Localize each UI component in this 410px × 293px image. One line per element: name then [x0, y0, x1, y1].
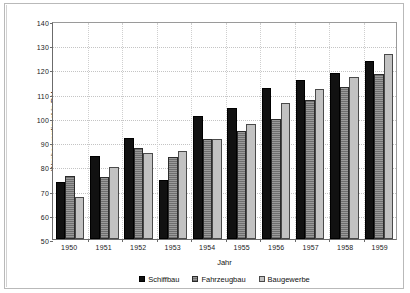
bar — [340, 87, 350, 239]
bar — [237, 131, 247, 240]
y-axis-tick-label: 130 — [37, 44, 49, 51]
bar-group — [53, 23, 87, 239]
legend-label: Baugewerbe — [268, 275, 310, 284]
bar — [281, 103, 291, 239]
bar-group — [156, 23, 190, 239]
bar — [374, 74, 384, 239]
bar — [159, 180, 169, 239]
bar — [65, 176, 75, 239]
bar — [384, 54, 394, 239]
bar — [246, 124, 256, 239]
y-axis-tick-label: 100 — [37, 116, 49, 123]
y-axis-tick-label: 120 — [37, 68, 49, 75]
y-axis-tick-label: 60 — [41, 213, 49, 220]
y-axis-tick-label: 50 — [41, 238, 49, 245]
chart-page: Wochenverdienst in DM 506070809010011012… — [0, 0, 410, 293]
plot-area: 5060708090100110120130140 — [52, 22, 397, 240]
x-axis-tick-mark — [226, 239, 227, 242]
bar — [262, 88, 272, 239]
bar — [349, 77, 359, 239]
bar — [330, 73, 340, 239]
legend-item: Schiffbau — [139, 275, 179, 284]
bar-group — [122, 23, 156, 239]
x-axis-tick-label: 1950 — [52, 244, 87, 256]
legend-label: Schiffbau — [148, 275, 179, 284]
x-axis-tick-mark — [191, 239, 192, 242]
x-axis-tick-mark — [295, 239, 296, 242]
bar-group — [362, 23, 396, 239]
legend-swatch-icon — [139, 276, 145, 282]
bar-group — [327, 23, 361, 239]
bar-groups — [53, 23, 396, 239]
bar — [271, 119, 281, 239]
bar — [305, 100, 315, 239]
x-axis-tick-mark — [329, 239, 330, 242]
legend-item: Fahrzeugbau — [192, 275, 245, 284]
bar-group — [87, 23, 121, 239]
x-axis-tick-mark — [260, 239, 261, 242]
bar — [315, 89, 325, 239]
x-axis-tick-mark — [157, 239, 158, 242]
x-axis-tick-label: 1959 — [363, 244, 398, 256]
bar-group — [224, 23, 258, 239]
bar — [90, 156, 100, 239]
bar — [168, 157, 178, 239]
y-axis-tick-label: 90 — [41, 141, 49, 148]
legend-item: Baugewerbe — [259, 275, 310, 284]
bar — [193, 116, 203, 239]
bar-group — [259, 23, 293, 239]
y-axis-tick-label: 140 — [37, 20, 49, 27]
y-axis-tick-mark — [50, 241, 53, 242]
x-axis-tick-mark — [88, 239, 89, 242]
x-axis-tick-label: 1955 — [225, 244, 260, 256]
bar — [296, 80, 306, 239]
bar — [227, 108, 237, 239]
x-axis-tick-label: 1958 — [328, 244, 363, 256]
bar — [143, 153, 153, 239]
bar-group — [293, 23, 327, 239]
bar — [178, 151, 188, 239]
bar-group — [190, 23, 224, 239]
legend-swatch-icon — [192, 276, 198, 282]
bar — [75, 197, 85, 239]
x-axis-tick-label: 1957 — [294, 244, 329, 256]
y-axis-tick-label: 110 — [37, 92, 49, 99]
y-axis-tick-label: 80 — [41, 165, 49, 172]
x-axis-tick-mark — [364, 239, 365, 242]
x-axis-tick-label: 1952 — [121, 244, 156, 256]
x-axis-tick-label: 1953 — [156, 244, 191, 256]
bar — [100, 177, 110, 239]
x-axis-title: Jahr — [52, 258, 397, 267]
x-axis-tick-label: 1956 — [259, 244, 294, 256]
y-axis-title-container: Wochenverdienst in DM — [0, 22, 26, 240]
x-axis-labels: 1950195119521953195419551956195719581959 — [52, 244, 397, 256]
x-axis-tick-label: 1951 — [87, 244, 122, 256]
x-axis-tick-label: 1954 — [190, 244, 225, 256]
bar — [124, 138, 134, 239]
x-axis-tick-mark — [122, 239, 123, 242]
legend-swatch-icon — [259, 276, 265, 282]
y-axis-tick-label: 70 — [41, 189, 49, 196]
legend-label: Fahrzeugbau — [201, 275, 245, 284]
bar — [56, 182, 66, 239]
bar — [134, 148, 144, 239]
bar — [212, 139, 222, 239]
chart-legend: SchiffbauFahrzeugbauBaugewerbe — [52, 272, 397, 286]
bar — [109, 167, 119, 239]
bar — [203, 139, 213, 239]
bar — [365, 61, 375, 239]
